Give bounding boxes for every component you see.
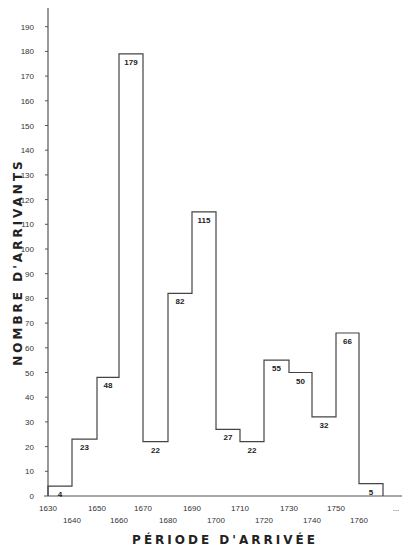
y-tick-label: 160	[21, 97, 35, 106]
x-tick-label: 1660	[110, 516, 128, 525]
x-tick-label: 1640	[63, 516, 81, 525]
bar-value-label: 55	[272, 364, 281, 373]
bar-value-label: 82	[176, 297, 185, 306]
bar-value-label: 22	[248, 446, 257, 455]
x-tick-label: 1670	[134, 504, 152, 513]
histogram-chart: 0102030405060708090100110120130140150160…	[0, 0, 412, 550]
histogram-bars	[48, 54, 383, 496]
x-tick-label: 1700	[207, 516, 225, 525]
y-tick-label: 20	[25, 443, 34, 452]
y-tick-label: 70	[25, 319, 34, 328]
bar-value-label: 22	[151, 446, 160, 455]
x-tick-label: 1710	[231, 504, 249, 513]
y-tick-label: 30	[25, 418, 34, 427]
x-tick-label: 1760	[350, 516, 368, 525]
y-tick-label: 150	[21, 122, 35, 131]
y-tick-label: 180	[21, 47, 35, 56]
x-tick-label: 1680	[159, 516, 177, 525]
y-tick-label: 60	[25, 344, 34, 353]
x-axis-title: PÉRIODE D'ARRIVÉE	[132, 532, 318, 547]
x-tick-label: 1630	[39, 504, 57, 513]
y-tick-label: 80	[25, 294, 34, 303]
bar-value-label: 5	[369, 488, 374, 497]
x-tick-label: ...	[393, 504, 400, 513]
y-axis-title: NOMBRE D'ARRIVANTS	[11, 158, 25, 365]
bar-value-label: 23	[80, 443, 89, 452]
y-tick-label: 50	[25, 369, 34, 378]
bar-value-label: 66	[343, 337, 352, 346]
x-tick-label: 1750	[327, 504, 345, 513]
bar-value-label: 179	[124, 58, 138, 67]
y-tick-label: 40	[25, 393, 34, 402]
x-tick-label: 1740	[303, 516, 321, 525]
y-tick-label: 140	[21, 146, 35, 155]
y-tick-label: 170	[21, 72, 35, 81]
y-tick-label: 90	[25, 270, 34, 279]
x-tick-label: 1720	[255, 516, 273, 525]
x-tick-label: 1690	[183, 504, 201, 513]
bar-value-label: 48	[104, 381, 113, 390]
x-tick-label: 1650	[88, 504, 106, 513]
bar-value-label: 50	[296, 377, 305, 386]
bar-value-label: 4	[58, 490, 63, 499]
bar-value-label: 115	[198, 216, 211, 225]
y-tick-label: 10	[25, 467, 34, 476]
x-axis: 1630164016501660167016801690170017101720…	[39, 496, 402, 525]
bar-value-label: 32	[320, 421, 329, 430]
x-tick-label: 1730	[280, 504, 298, 513]
bar-value-label: 27	[224, 433, 233, 442]
y-tick-label: 190	[21, 23, 35, 32]
y-tick-label: 0	[30, 492, 35, 501]
